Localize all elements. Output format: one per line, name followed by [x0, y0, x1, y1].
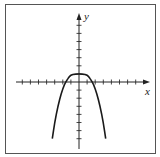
- y-axis-arrow-icon: [77, 13, 82, 20]
- x-axis-arrow-icon: [143, 80, 150, 85]
- x-axis-label: x: [144, 85, 150, 97]
- y-axis-label: y: [83, 10, 89, 22]
- chart-svg: x y: [0, 0, 160, 157]
